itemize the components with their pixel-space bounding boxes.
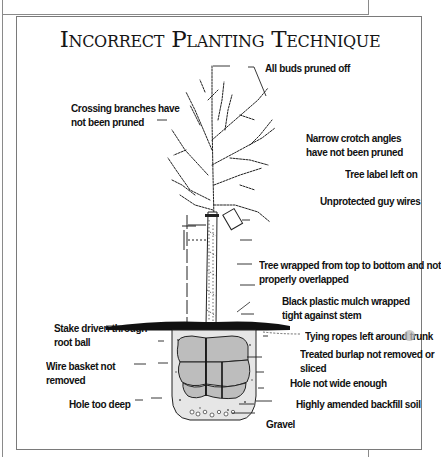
label-tree-wrapped-2: properly overlapped bbox=[259, 271, 349, 286]
label-backfill-soil: Highly amended backfill soil bbox=[296, 396, 421, 411]
label-tree-wrapped-1: Tree wrapped from top to bottom and not bbox=[259, 257, 441, 272]
label-black-mulch-1: Black plastic mulch wrapped bbox=[282, 293, 410, 308]
label-burlap-2: sliced bbox=[300, 360, 326, 375]
label-narrow-crotch-2: have not been pruned bbox=[306, 144, 403, 159]
tree-label-tag bbox=[223, 209, 243, 230]
label-crossing-branches-1: Crossing branches have bbox=[71, 100, 179, 115]
label-stake-2: root ball bbox=[54, 334, 90, 349]
tying-rope-band bbox=[205, 214, 219, 217]
trunk bbox=[206, 212, 217, 325]
label-wire-basket-2: removed bbox=[46, 372, 85, 387]
label-black-mulch-2: tight against stem bbox=[282, 307, 361, 322]
label-crossing-branches-2: not been pruned bbox=[71, 114, 144, 129]
cursor-indicator bbox=[404, 330, 415, 341]
leader-stem bbox=[212, 66, 214, 220]
label-hole-too-deep: Hole too deep bbox=[69, 396, 131, 411]
label-hole-not-wide: Hole not wide enough bbox=[290, 375, 387, 390]
leader-all-buds bbox=[213, 66, 266, 96]
label-guy-wires: Unprotected guy wires bbox=[320, 193, 420, 208]
label-tree-label: Tree label left on bbox=[345, 166, 418, 181]
label-wire-basket-1: Wire basket not bbox=[46, 358, 115, 373]
label-narrow-crotch-1: Narrow crotch angles bbox=[306, 130, 401, 145]
label-gravel: Gravel bbox=[266, 416, 295, 431]
label-stake-1: Stake driven through bbox=[54, 320, 147, 335]
label-all-buds: All buds pruned off bbox=[265, 60, 350, 75]
label-burlap-1: Treated burlap not removed or bbox=[300, 346, 434, 361]
